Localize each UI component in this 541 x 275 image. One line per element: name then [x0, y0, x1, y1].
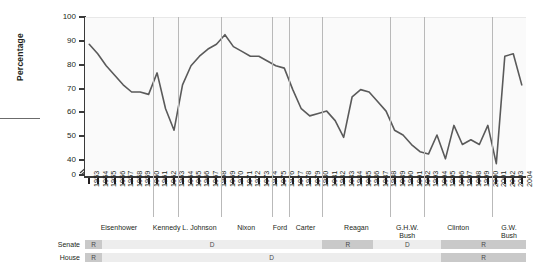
y-tick-label-90: 90: [54, 36, 76, 45]
president-label-gwbush: G.W.Bush: [492, 224, 526, 239]
president-label-carter: Carter: [289, 224, 323, 232]
x-tick-label-2003: 2003: [516, 171, 525, 187]
house-row-label: House: [36, 254, 80, 261]
x-tick-label-1978: 1978: [304, 171, 313, 187]
house-segment-r-1995: R: [441, 253, 526, 262]
x-tick-label-1986: 1986: [372, 171, 381, 187]
plot-area: [85, 17, 526, 176]
president-label-nixon: Nixon: [221, 224, 272, 232]
president-separator-reagan: [322, 17, 323, 217]
senate-segment-r-1995: R: [441, 240, 526, 249]
y-tick-label-40: 40: [54, 155, 76, 164]
x-tick-label-1955: 1955: [109, 171, 118, 187]
president-separator-ghwbush: [390, 17, 391, 217]
president-separator-clinton: [424, 17, 425, 217]
senate-segment-d-1987: D: [373, 240, 441, 249]
y-tick-label-80: 80: [54, 60, 76, 69]
senate-segment-d-1955: D: [102, 240, 323, 249]
x-tick-label-1999: 1999: [482, 171, 491, 187]
president-separator-ford: [272, 17, 273, 217]
x-tick-1953: [88, 178, 90, 184]
x-tick-label-1957: 1957: [126, 171, 135, 187]
y-tick-label-70: 70: [54, 84, 76, 93]
x-tick-label-2001: 2001: [499, 171, 508, 187]
senate-segment-r-1953: R: [85, 240, 102, 249]
house-segment-d-1955: D: [102, 253, 441, 262]
president-separator-kennedy: [153, 17, 154, 217]
line-series-path: [89, 35, 522, 164]
president-label-ford: Ford: [272, 224, 289, 232]
president-label-eisenhower: Eisenhower: [85, 224, 153, 232]
president-label-ghwbush: G.H.W.Bush: [390, 224, 424, 239]
y-tick-label-60: 60: [54, 107, 76, 116]
house-segment-r-1953: R: [85, 253, 102, 262]
y-tick-label-50: 50: [54, 131, 76, 140]
x-tick-label-1984: 1984: [355, 171, 364, 187]
y-tick-label-100: 100: [54, 12, 76, 21]
president-label-clinton: Clinton: [424, 224, 492, 232]
president-label-ljohnson: L. Johnson: [178, 224, 220, 232]
left-rule-decoration: [0, 118, 40, 119]
y-tick-label-0: 0: [54, 170, 76, 179]
president-separator-nixon: [221, 17, 222, 217]
president-separator-gwbush: [492, 17, 493, 217]
president-separator-ljohnson: [178, 17, 179, 217]
x-tick-label-1961: 1961: [160, 171, 169, 187]
x-tick-label-1982: 1982: [338, 171, 347, 187]
y-axis-title: Percentage: [15, 0, 25, 117]
president-separator-carter: [289, 17, 290, 217]
senate-row-label: Senate: [36, 241, 80, 248]
line-series: [85, 18, 526, 176]
president-label-kennedy: Kennedy: [153, 224, 178, 232]
chart-figure: Percentage 0405060708090100 195319541955…: [0, 0, 541, 275]
x-tick-label-1990: 1990: [406, 171, 415, 187]
president-label-reagan: Reagan: [322, 224, 390, 232]
x-tick-label-1953: 1953: [92, 171, 101, 187]
senate-segment-r-1981: R: [322, 240, 373, 249]
x-tick-label-2004: 2004: [525, 171, 534, 187]
x-tick-label-1959: 1959: [143, 171, 152, 187]
